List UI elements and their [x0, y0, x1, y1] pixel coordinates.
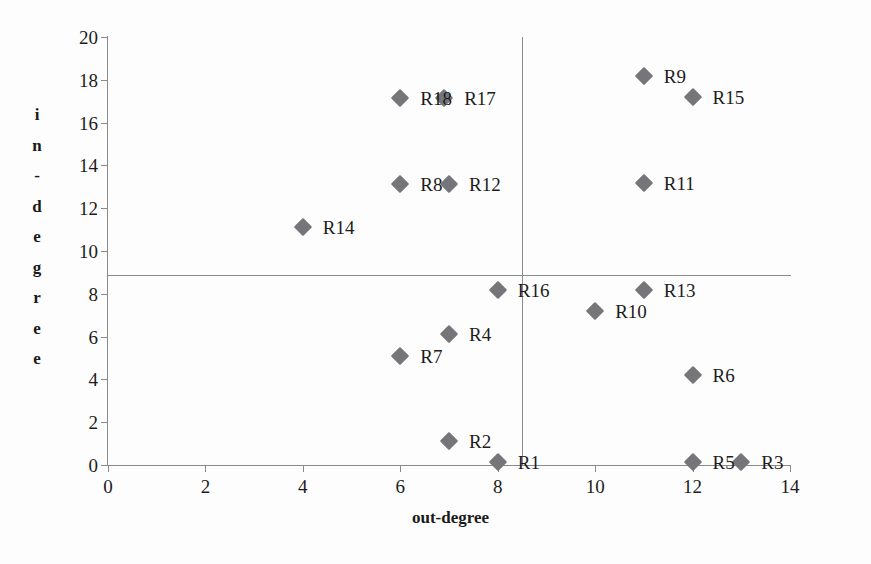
data-point-marker	[391, 174, 409, 192]
data-point-marker	[683, 88, 701, 106]
y-axis-title-char: e	[26, 222, 48, 253]
data-point-label: R16	[518, 280, 550, 299]
y-tick-label: 2	[58, 413, 98, 432]
y-tick-mark	[101, 123, 108, 124]
y-tick-mark	[101, 165, 108, 166]
data-point-label: R2	[469, 432, 491, 451]
data-point-marker	[489, 280, 507, 298]
data-point-label: R7	[420, 346, 442, 365]
data-point-label: R18	[420, 88, 452, 107]
y-tick-label: 12	[58, 199, 98, 218]
data-point-label: R3	[761, 452, 783, 471]
y-tick-label: 8	[58, 285, 98, 304]
y-tick-label: 10	[58, 242, 98, 261]
y-tick-label: 14	[58, 156, 98, 175]
y-tick-label: 4	[58, 370, 98, 389]
data-point-marker	[391, 89, 409, 107]
x-tick-label: 0	[86, 476, 130, 498]
x-tick-mark	[205, 465, 206, 472]
data-point-marker	[635, 66, 653, 84]
y-tick-label: 20	[58, 28, 98, 47]
y-axis-title-char: e	[26, 344, 48, 375]
x-tick-mark	[790, 465, 791, 472]
y-axis-title-char: i	[26, 100, 48, 131]
y-tick-mark	[101, 465, 108, 466]
x-tick-label: 2	[183, 476, 227, 498]
data-point-marker	[391, 347, 409, 365]
data-point-label: R12	[469, 174, 501, 193]
data-point-marker	[440, 325, 458, 343]
x-tick-mark	[303, 465, 304, 472]
data-point-label: R4	[469, 325, 491, 344]
x-tick-mark	[595, 465, 596, 472]
data-point-label: R15	[713, 87, 745, 106]
data-point-marker	[440, 432, 458, 450]
y-tick-label: 16	[58, 114, 98, 133]
y-tick-mark	[101, 422, 108, 423]
data-point-marker	[586, 302, 604, 320]
x-axis-title: out-degree	[0, 508, 871, 528]
x-tick-mark	[400, 465, 401, 472]
scatter-chart: in-degree out-degree 02468101214161820 0…	[0, 0, 871, 564]
data-point-marker	[489, 453, 507, 471]
x-tick-mark	[108, 465, 109, 472]
x-tick-label: 4	[281, 476, 325, 498]
y-axis-title-char: r	[26, 283, 48, 314]
data-point-marker	[732, 453, 750, 471]
data-point-label: R14	[323, 218, 355, 237]
y-axis-title: in-degree	[26, 100, 48, 375]
data-point-label: R13	[664, 280, 696, 299]
data-point-marker	[683, 366, 701, 384]
y-axis-title-char: -	[26, 161, 48, 192]
y-axis-title-char: n	[26, 131, 48, 162]
x-tick-label: 8	[476, 476, 520, 498]
y-tick-label: 0	[58, 456, 98, 475]
horizontal-reference-line	[108, 275, 791, 276]
data-point-marker	[635, 280, 653, 298]
y-axis-title-char: d	[26, 192, 48, 223]
data-point-label: R17	[464, 88, 496, 107]
y-tick-mark	[101, 80, 108, 81]
y-tick-mark	[101, 251, 108, 252]
x-tick-label: 12	[671, 476, 715, 498]
data-point-marker	[440, 174, 458, 192]
vertical-reference-line	[522, 37, 523, 465]
y-tick-mark	[101, 37, 108, 38]
data-point-label: R1	[518, 452, 540, 471]
data-point-marker	[294, 218, 312, 236]
y-axis-title-char: g	[26, 253, 48, 284]
y-tick-mark	[101, 337, 108, 338]
data-point-label: R6	[713, 366, 735, 385]
data-point-label: R9	[664, 66, 686, 85]
data-point-label: R5	[713, 452, 735, 471]
x-tick-label: 6	[378, 476, 422, 498]
y-axis-title-char: e	[26, 314, 48, 345]
data-point-marker	[635, 173, 653, 191]
data-point-label: R11	[664, 173, 695, 192]
y-tick-label: 18	[58, 71, 98, 90]
y-tick-mark	[101, 294, 108, 295]
x-tick-label: 14	[768, 476, 812, 498]
data-point-marker	[683, 453, 701, 471]
data-point-label: R10	[615, 301, 647, 320]
y-tick-mark	[101, 208, 108, 209]
y-tick-label: 6	[58, 328, 98, 347]
x-tick-label: 10	[573, 476, 617, 498]
y-tick-mark	[101, 379, 108, 380]
